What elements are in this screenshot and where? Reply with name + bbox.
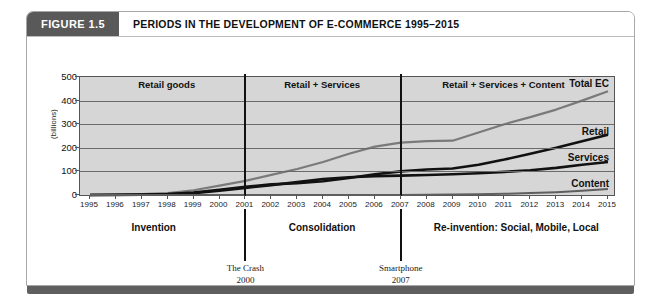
- series-label-total-ec: Total EC: [569, 78, 609, 89]
- y-tick-label: 500: [31, 71, 77, 82]
- era-label: Consolidation: [289, 222, 356, 233]
- x-axis: 1995199619971998199920002001200220032004…: [79, 195, 615, 215]
- x-tick-label: 1999: [184, 200, 202, 209]
- x-tick-label: 2009: [443, 200, 461, 209]
- x-tick-mark: [244, 195, 245, 199]
- y-tick-label: 100: [31, 165, 77, 176]
- figure-card: FIGURE 1.5 PERIODS IN THE DEVELOPMENT OF…: [26, 11, 635, 286]
- series-label-services: Services: [568, 152, 609, 163]
- plot-region: [79, 76, 615, 196]
- x-tick-label: 2008: [417, 200, 435, 209]
- gridline: [80, 101, 614, 102]
- x-tick-mark: [141, 195, 142, 199]
- figure-number-tag: FIGURE 1.5: [27, 12, 119, 36]
- x-tick-label: 2005: [339, 200, 357, 209]
- x-tick-label: 2001: [235, 200, 253, 209]
- event-marker-stem: [400, 209, 402, 261]
- y-axis-ticks: 0100200300400500: [27, 37, 77, 287]
- x-tick-label: 2012: [520, 200, 538, 209]
- figure-bottom-bar: [27, 286, 634, 294]
- x-tick-mark: [503, 195, 504, 199]
- era-label: Invention: [132, 222, 176, 233]
- x-tick-mark: [322, 195, 323, 199]
- y-tick-label: 400: [31, 94, 77, 105]
- x-tick-mark: [555, 195, 556, 199]
- x-tick-label: 2011: [495, 200, 512, 209]
- x-tick-mark: [478, 195, 479, 199]
- series-label-content: Content: [571, 178, 609, 189]
- era-label: Re-invention: Social, Mobile, Local: [434, 222, 599, 233]
- series-lines: [80, 77, 614, 195]
- x-tick-mark: [374, 195, 375, 199]
- x-tick-mark: [193, 195, 194, 199]
- x-tick-mark: [426, 195, 427, 199]
- figure-header: FIGURE 1.5 PERIODS IN THE DEVELOPMENT OF…: [27, 12, 634, 37]
- x-tick-label: 2014: [572, 200, 590, 209]
- event-marker-text: The Crash2000: [227, 262, 264, 286]
- event-marker-year: 2007: [379, 274, 423, 286]
- period-band-label: Retail + Services + Content: [442, 79, 565, 90]
- figure-title: PERIODS IN THE DEVELOPMENT OF E-COMMERCE…: [119, 12, 634, 36]
- event-marker-text: Smartphone2007: [379, 262, 423, 286]
- gridline: [80, 148, 614, 149]
- figure-screenshot: FIGURE 1.5 PERIODS IN THE DEVELOPMENT OF…: [0, 0, 661, 306]
- period-band-label: Retail + Services: [284, 79, 360, 90]
- x-tick-mark: [167, 195, 168, 199]
- x-tick-label: 2007: [391, 200, 409, 209]
- x-tick-mark: [89, 195, 90, 199]
- x-tick-label: 1995: [80, 200, 98, 209]
- x-tick-mark: [581, 195, 582, 199]
- event-marker-name: Smartphone: [379, 262, 423, 274]
- series-line-services: [90, 162, 608, 195]
- period-divider-2001: [244, 74, 246, 196]
- gridline: [80, 124, 614, 125]
- series-label-retail: Retail: [582, 125, 609, 136]
- chart-area: (billions) 0100200300400500 Retail goods…: [27, 37, 634, 287]
- x-tick-label: 1996: [106, 200, 124, 209]
- x-tick-mark: [348, 195, 349, 199]
- x-tick-label: 2000: [210, 200, 228, 209]
- x-tick-label: 2002: [261, 200, 279, 209]
- x-tick-mark: [115, 195, 116, 199]
- gridline: [80, 171, 614, 172]
- period-band-label: Retail goods: [138, 79, 195, 90]
- x-tick-mark: [452, 195, 453, 199]
- x-tick-label: 2013: [546, 200, 564, 209]
- x-tick-mark: [400, 195, 401, 199]
- x-tick-label: 2004: [313, 200, 331, 209]
- series-line-retail: [90, 135, 608, 195]
- period-divider-2007: [400, 74, 402, 196]
- event-marker-name: The Crash: [227, 262, 264, 274]
- x-tick-label: 2015: [598, 200, 616, 209]
- x-tick-mark: [219, 195, 220, 199]
- x-tick-mark: [270, 195, 271, 199]
- x-tick-label: 2006: [365, 200, 383, 209]
- y-tick-label: 0: [31, 189, 77, 200]
- x-tick-mark: [607, 195, 608, 199]
- y-tick-label: 300: [31, 118, 77, 129]
- x-tick-label: 1998: [158, 200, 176, 209]
- x-tick-label: 2010: [469, 200, 487, 209]
- x-tick-mark: [296, 195, 297, 199]
- x-tick-mark: [529, 195, 530, 199]
- y-tick-label: 200: [31, 141, 77, 152]
- event-marker-stem: [244, 209, 246, 261]
- x-tick-label: 2003: [287, 200, 305, 209]
- x-tick-label: 1997: [132, 200, 150, 209]
- event-marker-year: 2000: [227, 274, 264, 286]
